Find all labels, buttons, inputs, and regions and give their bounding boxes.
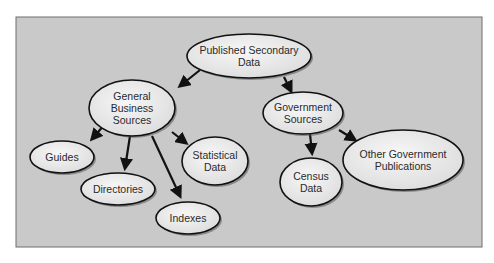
node-label: Other Government <box>360 148 447 160</box>
node-label: Sources <box>113 114 152 126</box>
node-label: Data <box>238 56 260 68</box>
node-label: Publications <box>375 160 432 172</box>
node-label: Census <box>293 170 329 182</box>
node-label: Data <box>204 161 226 173</box>
diagram: Published SecondaryDataGeneralBusinessSo… <box>0 0 494 263</box>
node-label: Sources <box>284 113 323 125</box>
node-label: Guides <box>45 151 78 163</box>
node-label: Published Secondary <box>199 44 299 56</box>
node-label: Data <box>300 182 322 194</box>
node-label: Statistical <box>193 149 238 161</box>
node-label: Business <box>111 102 154 114</box>
node-label: General <box>113 90 150 102</box>
node-label: Government <box>274 101 332 113</box>
node-label: Directories <box>93 183 143 195</box>
node-label: Indexes <box>170 212 207 224</box>
